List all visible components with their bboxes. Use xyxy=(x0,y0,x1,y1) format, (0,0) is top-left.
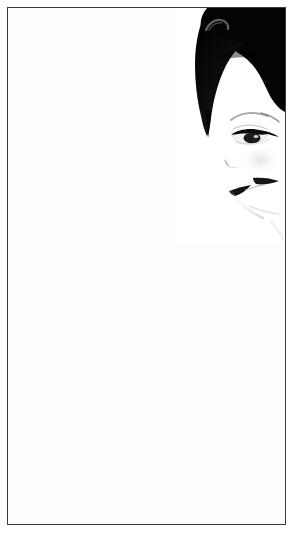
artwork-root xyxy=(0,0,295,533)
cheek-shadow xyxy=(239,144,283,176)
portrait-illustration xyxy=(175,8,285,243)
eye-catchlight xyxy=(254,135,259,138)
picture-frame xyxy=(7,7,286,525)
portrait-subject xyxy=(175,8,285,243)
iris xyxy=(244,133,261,143)
